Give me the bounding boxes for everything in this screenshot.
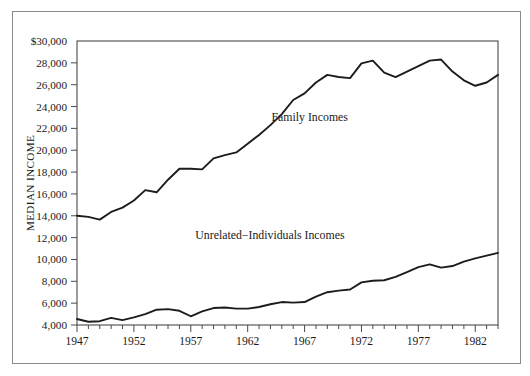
plot-area-border <box>77 41 498 325</box>
y-tick-label-14000: 14,000 <box>36 210 67 222</box>
y-tick-label-30000: $30,000 <box>31 35 68 47</box>
y-axis-tick-group <box>71 63 77 325</box>
x-tick-label-1982: 1982 <box>464 335 487 348</box>
series-annotation-group: Family IncomesUnrelated−Individuals Inco… <box>195 110 348 242</box>
y-tick-label-18000: 18,000 <box>36 166 67 178</box>
x-tick-label-1972: 1972 <box>350 335 373 348</box>
x-tick-label-1962: 1962 <box>236 335 259 348</box>
series-annotation-1: Unrelated−Individuals Incomes <box>195 228 345 242</box>
y-axis-title: MEDIAN INCOME <box>24 135 36 231</box>
x-tick-label-1947: 1947 <box>65 335 88 348</box>
series-line-unrelated-individuals-incomes <box>77 253 498 322</box>
y-tick-label-12000: 12,000 <box>36 232 67 244</box>
x-axis-minor-tick-group <box>88 325 498 329</box>
median-income-line-chart: 4,0006,0008,00010,00012,00014,00016,0001… <box>0 0 530 376</box>
plot-frame <box>77 41 498 325</box>
y-tick-label-8000: 8,000 <box>42 275 68 287</box>
x-axis-label-group: 19471952195719621967197219771982 <box>65 335 487 348</box>
y-tick-label-24000: 24,000 <box>36 101 67 113</box>
series-annotation-0: Family Incomes <box>272 110 349 124</box>
y-tick-label-16000: 16,000 <box>36 188 67 200</box>
y-tick-label-20000: 20,000 <box>36 144 67 156</box>
x-tick-label-1977: 1977 <box>407 335 430 348</box>
series-line-family-incomes <box>77 60 498 220</box>
y-tick-label-26000: 26,000 <box>36 79 67 91</box>
x-tick-label-1952: 1952 <box>122 335 145 348</box>
x-tick-label-1967: 1967 <box>293 335 316 348</box>
chart-figure: 4,0006,0008,00010,00012,00014,00016,0001… <box>0 0 530 376</box>
y-tick-label-10000: 10,000 <box>36 253 67 265</box>
y-tick-label-4000: 4,000 <box>42 319 68 331</box>
y-axis-label-group: 4,0006,0008,00010,00012,00014,00016,0001… <box>31 35 68 331</box>
y-tick-label-28000: 28,000 <box>36 57 67 69</box>
x-tick-label-1957: 1957 <box>179 335 202 348</box>
y-tick-label-6000: 6,000 <box>42 297 68 309</box>
y-tick-label-22000: 22,000 <box>36 122 67 134</box>
x-axis-major-tick-group <box>77 325 475 332</box>
